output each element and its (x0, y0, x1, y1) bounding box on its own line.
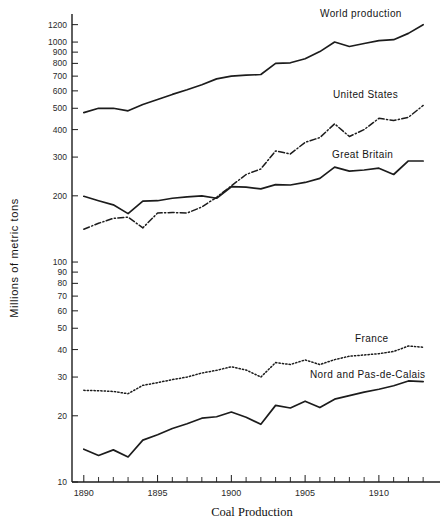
y-tick-label: 300 (53, 152, 67, 162)
x-tick-label: 1910 (369, 488, 389, 498)
y-tick-label: 200 (53, 191, 67, 201)
y-tick-label: 500 (53, 103, 67, 113)
y-axis-tick-labels: 1200100090080070060050040030020010090807… (48, 20, 67, 487)
y-axis-ticks (72, 25, 78, 482)
y-tick-label: 50 (58, 323, 68, 333)
x-axis-title: Coal Production (211, 505, 293, 519)
series-label: France (355, 333, 389, 344)
series-annotations: World productionUnited StatesGreat Brita… (310, 8, 426, 380)
y-tick-label: 20 (58, 411, 68, 421)
x-tick-label: 1895 (148, 488, 168, 498)
y-tick-label: 900 (53, 47, 67, 57)
y-tick-label: 800 (53, 58, 67, 68)
y-tick-label: 600 (53, 86, 67, 96)
series-line-nord-and-pas-de-calais (84, 381, 423, 457)
x-axis-tick-labels: 18901895190019051910 (74, 488, 389, 498)
y-tick-label: 60 (58, 306, 68, 316)
x-axis-ticks (84, 475, 423, 482)
y-axis-title: Millions of metric tons (8, 198, 20, 318)
y-tick-label: 30 (58, 372, 68, 382)
series-line-united-states (84, 105, 423, 229)
chart-canvas: 1200100090080070060050040030020010090807… (0, 0, 443, 525)
y-tick-label: 10 (58, 477, 68, 487)
series-label: Great Britain (332, 149, 393, 160)
coal-production-chart: 1200100090080070060050040030020010090807… (0, 0, 443, 525)
y-tick-label: 40 (58, 345, 68, 355)
y-tick-label: 1200 (48, 20, 67, 30)
x-tick-label: 1890 (74, 488, 94, 498)
series-line-great-britain (84, 161, 423, 214)
series-label: United States (333, 89, 398, 100)
series-label: World production (320, 8, 402, 19)
x-tick-label: 1905 (295, 488, 315, 498)
y-tick-label: 1000 (48, 37, 67, 47)
x-tick-label: 1900 (221, 488, 241, 498)
series-label: Nord and Pas-de-Calais (310, 369, 426, 380)
y-tick-label: 80 (58, 278, 68, 288)
y-tick-label: 100 (53, 257, 67, 267)
y-tick-label: 70 (58, 291, 68, 301)
y-tick-label: 700 (53, 71, 67, 81)
y-tick-label: 90 (58, 267, 68, 277)
y-tick-label: 400 (53, 125, 67, 135)
plot-axes: 1200100090080070060050040030020010090807… (48, 14, 440, 498)
